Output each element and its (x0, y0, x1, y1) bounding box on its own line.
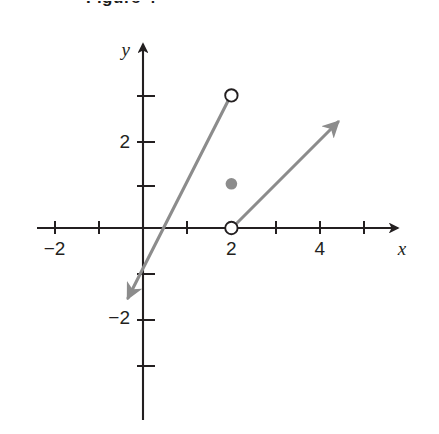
y-tick-label-2: 2 (119, 131, 130, 152)
tick-labels: −2 2 4 2 −2 (44, 131, 326, 329)
axes-group (37, 44, 398, 420)
y-tick-label--2: −2 (108, 307, 130, 328)
x-tick-label-2: 2 (226, 238, 237, 259)
y-axis-label: y (120, 39, 131, 60)
y-axis-ticks (137, 96, 155, 366)
shallow-ray (233, 122, 338, 227)
function-graph (128, 97, 338, 298)
x-axis-label: x (397, 238, 407, 259)
filled-point (226, 178, 238, 190)
coordinate-plane-graph: −2 2 4 2 −2 y x (0, 0, 439, 434)
point-markers (225, 89, 237, 234)
x-tick-label-4: 4 (315, 238, 326, 259)
open-point-origin (225, 222, 237, 234)
open-point-top (225, 89, 237, 101)
x-tick-label--2: −2 (44, 238, 66, 259)
